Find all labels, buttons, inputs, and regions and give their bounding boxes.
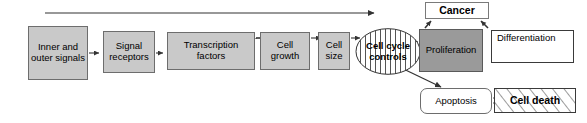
node-label: Signal receptors bbox=[104, 41, 154, 62]
node-label: Cell size bbox=[319, 40, 349, 61]
node-signal-receptors[interactable]: Signal receptors bbox=[103, 31, 155, 73]
node-label: Differentiation bbox=[495, 33, 557, 44]
node-transcription-factors[interactable]: Transcription factors bbox=[167, 32, 255, 70]
node-label: Proliferation bbox=[424, 45, 479, 56]
node-cell-size[interactable]: Cell size bbox=[318, 32, 350, 70]
edge-differentiation-to-cancer bbox=[481, 21, 488, 28]
node-cell-cycle-controls[interactable]: Cell cycle controls bbox=[355, 28, 421, 75]
node-cell-growth[interactable]: Cell growth bbox=[260, 32, 310, 70]
node-label: Inner and outer signals bbox=[29, 42, 87, 63]
node-label: Cell growth bbox=[261, 40, 309, 61]
node-apoptosis[interactable]: Apoptosis bbox=[420, 88, 492, 114]
node-label: Transcription factors bbox=[168, 40, 254, 61]
node-label: Cell cycle controls bbox=[355, 41, 421, 62]
edge-proliferation-to-cancer bbox=[425, 21, 431, 28]
node-cancer[interactable]: Cancer bbox=[425, 2, 489, 19]
node-label: Apoptosis bbox=[433, 96, 479, 107]
node-proliferation[interactable]: Proliferation bbox=[419, 29, 483, 72]
node-label: Cell death bbox=[508, 95, 562, 107]
node-cell-death[interactable]: Cell death bbox=[494, 88, 576, 113]
node-inner-outer-signals[interactable]: Inner and outer signals bbox=[28, 26, 88, 80]
node-label: Cancer bbox=[437, 5, 477, 17]
diagram-canvas: Inner and outer signals Signal receptors… bbox=[0, 0, 587, 123]
node-differentiation[interactable]: Differentiation bbox=[491, 30, 574, 63]
